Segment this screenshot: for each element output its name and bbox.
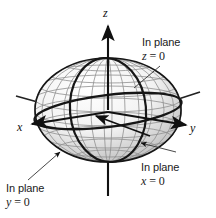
callout-plane-z0-op: = — [147, 49, 159, 63]
callout-plane-y0-equation: y = 0 — [6, 195, 44, 209]
callout-plane-x0-equation: x = 0 — [141, 174, 179, 188]
ellipsoid-figure: z x y In plane z = 0 In plane x = 0 In p… — [0, 0, 216, 218]
callout-plane-x0-text: In plane — [141, 161, 179, 173]
callout-plane-x0-op: = — [146, 174, 158, 188]
callout-plane-z0-text: In plane — [142, 36, 180, 48]
callout-plane-y0-op: = — [11, 195, 23, 209]
axis-label-z: z — [103, 6, 108, 20]
callout-plane-y0-value: 0 — [24, 195, 30, 209]
callout-plane-z0: In plane z = 0 — [142, 36, 180, 63]
axis-label-y: y — [190, 121, 195, 135]
callout-plane-z0-value: 0 — [159, 49, 165, 63]
leader-plane-y0 — [28, 152, 60, 180]
axis-label-x: x — [17, 120, 22, 134]
callout-plane-x0-value: 0 — [159, 174, 165, 188]
callout-plane-x0: In plane x = 0 — [141, 161, 179, 188]
callout-plane-y0: In plane y = 0 — [6, 182, 44, 209]
callout-plane-y0-text: In plane — [6, 182, 44, 194]
callout-plane-z0-equation: z = 0 — [142, 49, 180, 63]
